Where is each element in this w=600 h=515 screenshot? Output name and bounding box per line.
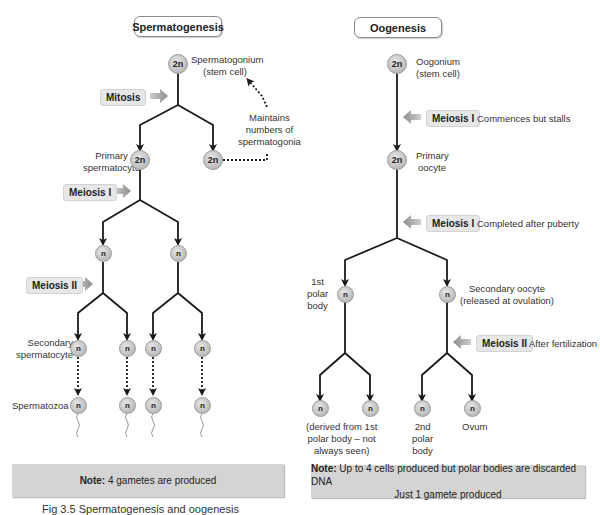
meiosis-2-desc: After fertilization — [529, 338, 597, 350]
mitosis-label: Mitosis — [100, 89, 146, 106]
secondary-spermatocyte-label-line1: Secondary — [16, 337, 73, 349]
secondary-oocyte-label: Secondary oocyte (released at ovulation) — [460, 283, 554, 307]
first-polar-body-cell: n — [337, 286, 354, 303]
primary-spermatocyte-cell: 2n — [130, 150, 150, 170]
maintains-note-line3: spermatogonia — [238, 136, 301, 148]
first-polar-body-label: 1st polar body — [307, 276, 328, 312]
second-polar-body-label-line3: body — [412, 445, 433, 457]
meiosis-2-label-oo: Meiosis II — [476, 335, 533, 352]
polar-body-derived-cell: n — [362, 400, 379, 417]
haploid-cell-left: n — [95, 245, 112, 262]
meiosis-1-stall-desc: Commences but stalls — [477, 113, 570, 125]
oogonium-label-line2: (stem cell) — [416, 68, 460, 80]
spermatozoon-cell: n — [70, 397, 87, 414]
maintains-note-line1: Maintains — [238, 112, 301, 124]
spermatogenesis-title: Spermatogenesis — [134, 16, 222, 37]
spermatozoon-cell: n — [119, 397, 136, 414]
derived-polar-note-line3: always seen) — [306, 445, 377, 457]
second-polar-body-label-line1: 2nd — [412, 421, 433, 433]
secondary-spermatocyte-cell: n — [119, 340, 136, 357]
oogenesis-note-line1: Note: Up to 4 cells produced but polar b… — [311, 462, 585, 488]
meiosis-1-stall-label: Meiosis I — [426, 110, 480, 127]
spermatogonium-label-line1: Spermatogonium — [191, 54, 263, 66]
ovum-cell: n — [464, 400, 481, 417]
meiosis-2-label-sperm: Meiosis II — [26, 277, 83, 294]
second-polar-body-cell: n — [414, 400, 431, 417]
secondary-spermatocyte-label: Secondary spermatocyte — [16, 337, 73, 361]
ovum-label: Ovum — [462, 421, 487, 433]
polar-body-derived-cell: n — [312, 400, 329, 417]
secondary-oocyte-label-line2: (released at ovulation) — [460, 295, 554, 307]
secondary-oocyte-label-line1: Secondary oocyte — [460, 283, 554, 295]
figure-caption: Fig 3.5 Spermatogenesis and oogenesis — [42, 503, 239, 515]
spermatozoon-cell: n — [145, 397, 162, 414]
secondary-spermatocyte-cell: n — [194, 340, 211, 357]
note-prefix: Note: — [80, 475, 106, 486]
spermatogonium-label-line2: (stem cell) — [191, 66, 263, 78]
spermatozoa-label: Spermatozoa — [12, 400, 69, 412]
haploid-cell-right: n — [170, 245, 187, 262]
oogonium-cell: 2n — [387, 54, 407, 74]
spermatogonium-label: Spermatogonium (stem cell) — [191, 54, 263, 78]
note-prefix: Note: — [311, 463, 337, 474]
first-polar-body-label-line3: body — [307, 300, 328, 312]
note-body: 4 gametes are produced — [105, 475, 216, 486]
oogonium-label: Oogonium (stem cell) — [416, 56, 460, 80]
primary-oocyte-label-line1: Primary — [416, 150, 449, 162]
derived-polar-note-line1: (derived from 1st — [306, 421, 377, 433]
secondary-spermatocyte-cell: n — [70, 340, 87, 357]
oogenesis-note: Note: Up to 4 cells produced but polar b… — [311, 465, 585, 498]
second-polar-body-label-line2: polar — [412, 433, 433, 445]
meiosis-1-complete-label: Meiosis I — [426, 215, 480, 232]
note-body: Up to 4 cells produced but polar bodies … — [311, 463, 576, 487]
first-polar-body-label-line2: polar — [307, 288, 328, 300]
derived-polar-note: (derived from 1st polar body – not alway… — [306, 421, 377, 457]
derived-polar-note-line2: polar body – not — [306, 433, 377, 445]
second-polar-body-label: 2nd polar body — [412, 421, 433, 457]
meiosis-1-label-sperm: Meiosis I — [63, 184, 117, 201]
maintains-note: Maintains numbers of spermatogonia — [238, 112, 301, 148]
oogonium-label-line1: Oogonium — [416, 56, 460, 68]
oogenesis-note-line2: Just 1 gamete produced — [394, 488, 501, 501]
renewed-spermatogonium-cell: 2n — [203, 150, 223, 170]
secondary-oocyte-cell: n — [439, 286, 456, 303]
spermatogenesis-note-text: Note: 4 gametes are produced — [80, 474, 217, 487]
primary-oocyte-cell: 2n — [387, 150, 407, 170]
primary-oocyte-label-line2: oocyte — [416, 162, 449, 174]
secondary-spermatocyte-cell: n — [145, 340, 162, 357]
oogenesis-title: Oogenesis — [354, 17, 442, 38]
spermatozoon-cell: n — [194, 397, 211, 414]
primary-oocyte-label: Primary oocyte — [416, 150, 449, 174]
first-polar-body-label-line1: 1st — [307, 276, 328, 288]
secondary-spermatocyte-label-line2: spermatocyte — [16, 349, 73, 361]
spermatogenesis-note: Note: 4 gametes are produced — [12, 464, 284, 497]
meiosis-1-complete-desc: Completed after puberty — [477, 218, 579, 230]
maintains-note-line2: numbers of — [238, 124, 301, 136]
spermatogonium-cell: 2n — [168, 54, 188, 74]
